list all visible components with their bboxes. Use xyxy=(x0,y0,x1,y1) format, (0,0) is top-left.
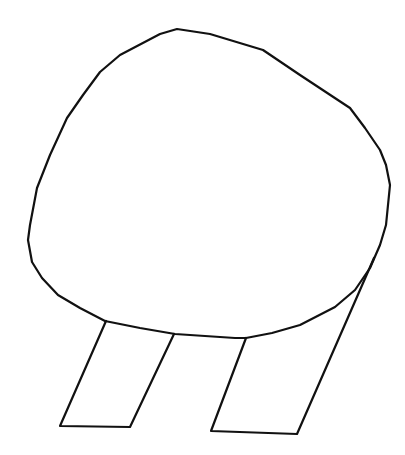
left-leg xyxy=(60,321,174,427)
right-leg xyxy=(211,258,374,434)
drawing-canvas xyxy=(0,0,405,455)
line-drawing xyxy=(0,0,405,455)
body-outline xyxy=(28,29,390,338)
